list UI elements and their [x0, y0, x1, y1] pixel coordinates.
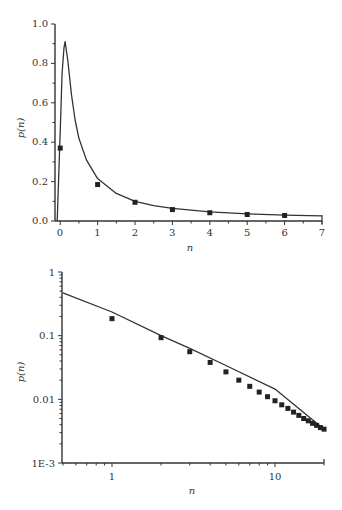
bottom-data-marker — [247, 384, 252, 389]
bottom-data-marker — [291, 410, 296, 415]
top-data-marker — [58, 146, 63, 151]
bottom-data-marker — [257, 390, 262, 395]
top-ytick-1: 0.2 — [32, 176, 48, 187]
top-data-marker — [245, 212, 250, 217]
bottom-data-marker — [279, 402, 284, 407]
top-data-points — [58, 146, 287, 218]
top-xtick-2: 2 — [132, 227, 138, 238]
top-ytick-0: 0.0 — [32, 215, 48, 226]
top-xtick-1: 1 — [94, 227, 100, 238]
top-xtick-4: 4 — [207, 227, 213, 238]
bottom-ytick-3: 1 — [49, 267, 55, 278]
top-xtick-5: 5 — [244, 227, 250, 238]
bottom-loglog-chart: 1E-3 0.01 0.1 1 1 10 n p(n) — [15, 267, 327, 496]
top-fit-curve — [57, 42, 322, 221]
top-xtick-6: 6 — [281, 227, 287, 238]
bottom-data-marker — [208, 360, 213, 365]
bottom-ytick-2: 0.1 — [39, 330, 55, 341]
top-ytick-5: 1.0 — [32, 18, 48, 29]
top-xtick-0: 0 — [57, 227, 63, 238]
bottom-fit-curve — [63, 293, 324, 429]
top-axes — [51, 24, 322, 225]
bottom-data-marker — [187, 349, 192, 354]
bottom-ytick-1: 0.01 — [33, 394, 55, 405]
bottom-ytick-0: 1E-3 — [31, 458, 55, 469]
top-linear-chart: 0.0 0.2 0.4 0.6 0.8 1.0 0 1 2 3 4 5 6 7 … — [15, 18, 325, 253]
bottom-data-marker — [273, 398, 278, 403]
top-ytick-2: 0.4 — [32, 136, 48, 147]
bottom-xlabel: n — [189, 485, 195, 496]
top-ytick-4: 0.8 — [32, 57, 48, 68]
bottom-data-marker — [110, 316, 115, 321]
top-data-marker — [282, 213, 287, 218]
bottom-axes — [58, 272, 324, 467]
top-ytick-3: 0.6 — [32, 97, 48, 108]
bottom-data-marker — [322, 427, 327, 432]
top-data-marker — [133, 200, 138, 205]
top-data-marker — [95, 182, 100, 187]
bottom-data-marker — [223, 369, 228, 374]
bottom-data-marker — [236, 378, 241, 383]
bottom-data-marker — [285, 406, 290, 411]
bottom-data-marker — [159, 335, 164, 340]
figure: 0.0 0.2 0.4 0.6 0.8 1.0 0 1 2 3 4 5 6 7 … — [0, 0, 342, 510]
top-curve-path — [57, 42, 322, 221]
bottom-xtick-1: 10 — [269, 471, 282, 482]
top-xtick-3: 3 — [169, 227, 175, 238]
bottom-curve-path — [63, 293, 324, 429]
top-ylabel: p(n) — [15, 118, 26, 139]
top-data-marker — [207, 210, 212, 215]
bottom-data-marker — [296, 413, 301, 418]
bottom-data-marker — [306, 418, 311, 423]
bottom-ylabel: p(n) — [15, 362, 26, 383]
top-xtick-7: 7 — [319, 227, 325, 238]
bottom-data-points — [110, 316, 327, 432]
top-xlabel: n — [187, 242, 193, 253]
bottom-data-marker — [265, 394, 270, 399]
bottom-xtick-0: 1 — [109, 471, 115, 482]
bottom-data-marker — [301, 416, 306, 421]
top-data-marker — [170, 207, 175, 212]
